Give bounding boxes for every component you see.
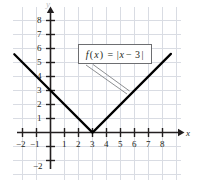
x-tick-label-8: 8 (160, 140, 165, 149)
vertical-gridlines (23, 7, 177, 180)
equation-abs-close: | (141, 49, 144, 60)
x-axis-label: x (186, 129, 190, 138)
y-tick-label-1: 1 (37, 114, 42, 123)
equation-text: f(x)=|x−3| (86, 49, 145, 60)
y-tick-label-3: 3 (37, 86, 42, 95)
absolute-value-function-graph: 8 7 6 5 4 3 2 1 −2 −2 −1 1 2 3 4 5 6 7 8… (0, 0, 198, 181)
x-axis (17, 129, 185, 136)
x-tick-label-6: 6 (132, 140, 137, 149)
y-tick-label-minus-2: −2 (33, 162, 43, 171)
x-tick-label-4: 4 (104, 140, 109, 149)
equation-callout-box: f(x)=|x−3| (78, 44, 152, 64)
y-tick-label-5: 5 (37, 58, 42, 67)
equation-equals: = (104, 49, 116, 60)
y-tick-label-2: 2 (37, 100, 42, 109)
plot-canvas (0, 0, 198, 181)
x-tick-label-minus-2: −2 (16, 140, 26, 149)
equation-minus: − (124, 49, 134, 60)
x-tick-label-2: 2 (76, 140, 81, 149)
y-tick-label-6: 6 (37, 44, 42, 53)
y-tick-label-4: 4 (37, 72, 42, 81)
x-tick-label-3: 3 (90, 140, 95, 149)
x-tick-label-1: 1 (62, 140, 67, 149)
x-tick-label-7: 7 (146, 140, 151, 149)
y-tick-label-8: 8 (37, 16, 42, 25)
y-axis-label: y (46, 0, 50, 9)
x-tick-label-5: 5 (118, 140, 123, 149)
y-tick-label-7: 7 (37, 30, 42, 39)
x-tick-label-minus-1: −1 (30, 140, 40, 149)
